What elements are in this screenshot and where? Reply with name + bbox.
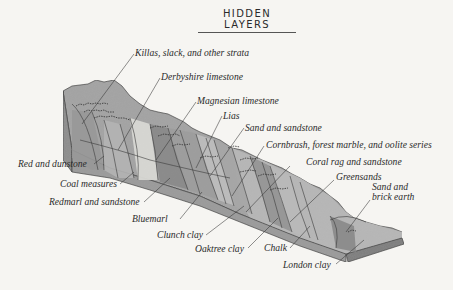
label-coal-measures: Coal measures (60, 179, 117, 189)
label-oaktree-clay: Oaktree clay (195, 244, 244, 254)
diagram-canvas: HIDDEN LAYERS (0, 0, 453, 290)
label-killas: Killas, slack, and other strata (135, 48, 249, 58)
label-red-dunstone: Red and dunstone (18, 159, 87, 169)
label-redmarl: Redmarl and sandstone (49, 197, 140, 207)
label-london-clay: London clay (283, 260, 331, 270)
label-derbyshire: Derbyshire limestone (161, 72, 243, 82)
label-clunch-clay: Clunch clay (157, 230, 203, 240)
label-coral-rag: Coral rag and sandstone (306, 157, 402, 167)
label-bluemarl: Bluemarl (132, 214, 168, 224)
label-cornbrash: Cornbrash, forest marble, and oolite ser… (266, 140, 432, 150)
label-magnesian: Magnesian limestone (197, 96, 279, 106)
label-sand-sandstone: Sand and sandstone (245, 123, 322, 133)
label-sand-brick-earth: Sand and brick earth (372, 182, 414, 202)
label-chalk: Chalk (264, 243, 287, 253)
label-lias: Lias (223, 111, 240, 121)
